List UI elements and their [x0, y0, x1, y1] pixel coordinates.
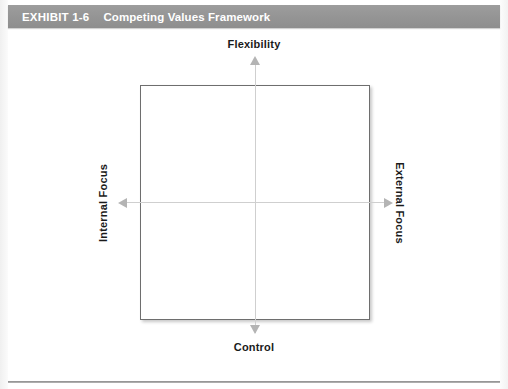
axis-label-internal-focus: Internal Focus	[97, 164, 109, 242]
exhibit-number-label: EXHIBIT 1-6	[22, 11, 89, 23]
exhibit-title: Competing Values Framework	[103, 11, 270, 23]
axis-label-external-focus: External Focus	[394, 162, 406, 244]
arrow-left-icon	[118, 198, 127, 208]
arrow-up-icon	[250, 56, 260, 65]
axis-label-control: Control	[0, 341, 508, 353]
page-bottom-rule	[8, 381, 500, 383]
axis-label-flexibility: Flexibility	[0, 38, 508, 50]
competing-values-framework-diagram: Flexibility Control Internal Focus Exter…	[0, 30, 508, 378]
exhibit-page: EXHIBIT 1-6 Competing Values Framework F…	[0, 0, 508, 389]
exhibit-header-bar: EXHIBIT 1-6 Competing Values Framework	[8, 5, 500, 28]
arrow-right-icon	[384, 198, 393, 208]
vertical-axis-line	[255, 63, 256, 333]
arrow-down-icon	[250, 325, 260, 334]
